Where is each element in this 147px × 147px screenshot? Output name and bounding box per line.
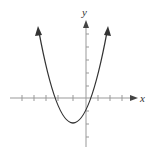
parabola-graph: x y: [0, 0, 147, 147]
curve-left-arrow-icon: [35, 26, 42, 36]
y-axis-arrow-icon: [83, 20, 89, 28]
parabola-curve: [39, 32, 107, 123]
y-axis-label: y: [81, 6, 87, 18]
curve-right-arrow-icon: [104, 26, 111, 36]
x-axis-label: x: [139, 92, 145, 104]
x-axis-arrow-icon: [130, 95, 138, 101]
